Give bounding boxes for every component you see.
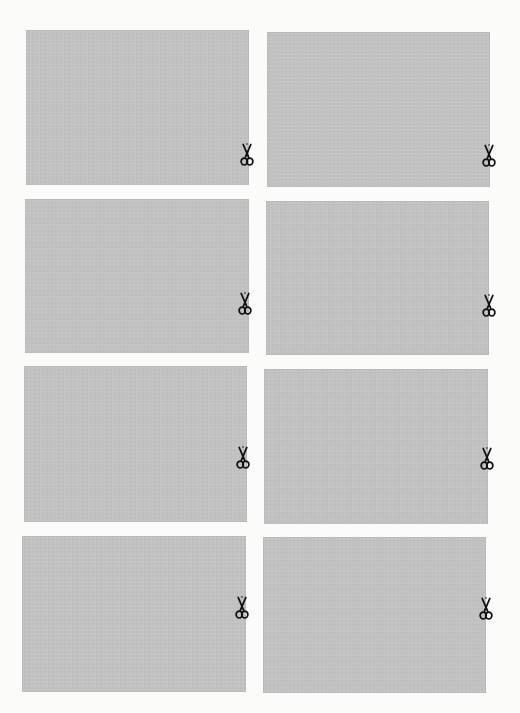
blank-card-r3-right	[264, 369, 488, 524]
scissors-glyph	[482, 294, 496, 318]
scissors-glyph	[238, 292, 252, 316]
scissors-icon[interactable]	[238, 292, 252, 316]
scissors-icon[interactable]	[236, 446, 250, 470]
printable-card-sheet	[0, 0, 520, 713]
blank-card-r4-right	[263, 537, 486, 693]
blank-card-r3-left	[24, 366, 247, 522]
scissors-icon[interactable]	[482, 294, 496, 318]
blank-card-r1-left	[26, 30, 249, 185]
blank-card-r1-right	[267, 32, 490, 187]
scissors-glyph	[236, 446, 250, 470]
blank-card-r2-right	[266, 201, 489, 355]
scissors-glyph	[479, 597, 493, 621]
scissors-icon[interactable]	[479, 597, 493, 621]
blank-card-r2-left	[25, 199, 249, 353]
scissors-glyph	[482, 144, 496, 168]
scissors-icon[interactable]	[482, 144, 496, 168]
scissors-icon[interactable]	[480, 447, 494, 471]
scissors-glyph	[235, 596, 249, 620]
scissors-glyph	[480, 447, 494, 471]
blank-card-r4-left	[22, 536, 246, 692]
scissors-glyph	[240, 143, 254, 167]
scissors-icon[interactable]	[240, 143, 254, 167]
scissors-icon[interactable]	[235, 596, 249, 620]
